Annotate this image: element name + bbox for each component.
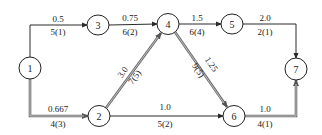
edge-5-7-top-label: 2.0	[259, 13, 271, 23]
node-1-label: 1	[28, 63, 33, 74]
node-6: 6	[223, 106, 245, 127]
edge-3-4: 0.75 6(2)	[109, 13, 157, 37]
node-2-label: 2	[97, 111, 102, 122]
activity-network-diagram: 0.5 5(1) 0.667 4(3) 0.75 6(2) 3.0 7(5) 1…	[0, 0, 322, 135]
node-2: 2	[88, 106, 110, 127]
edge-1-2-bottom-label: 4(3)	[51, 119, 66, 129]
node-5-label: 5	[230, 19, 235, 30]
edge-2-6: 1.0 5(2)	[110, 102, 223, 129]
edge-1-2: 0.667 4(3)	[30, 79, 88, 129]
edge-1-2-top-label: 0.667	[48, 104, 69, 114]
edge-2-6-bottom-label: 5(2)	[158, 119, 173, 129]
edge-3-4-top-label: 0.75	[122, 13, 138, 23]
edge-1-3-top-label: 0.5	[52, 14, 64, 24]
node-7-label: 7	[294, 64, 299, 75]
node-5: 5	[221, 14, 243, 34]
node-7: 7	[285, 58, 307, 80]
edge-2-6-top-label: 1.0	[159, 102, 171, 112]
node-1: 1	[19, 57, 41, 79]
node-4: 4	[157, 14, 179, 35]
node-4-label: 4	[166, 19, 171, 30]
edge-4-5-bottom-label: 6(4)	[190, 27, 205, 37]
edge-1-3-bottom-label: 5(1)	[51, 27, 66, 37]
edge-5-7-bottom-label: 2(1)	[258, 27, 273, 37]
edge-6-7-bottom-label: 4(1)	[258, 119, 273, 129]
edge-6-7: 1.0 4(1)	[245, 80, 296, 129]
edge-3-4-bottom-label: 6(2)	[123, 27, 138, 37]
edge-4-6: 1.25 9(5)	[175, 32, 227, 107]
node-6-label: 6	[232, 111, 237, 122]
edge-4-5-top-label: 1.5	[191, 13, 203, 23]
edge-4-5: 1.5 6(4)	[179, 13, 221, 37]
edge-2-4: 3.0 7(5)	[106, 33, 161, 108]
node-3: 3	[87, 15, 109, 35]
edge-6-7-top-label: 1.0	[259, 104, 271, 114]
edge-5-7: 2.0 2(1)	[243, 13, 296, 58]
edge-1-3: 0.5 5(1)	[30, 14, 87, 57]
node-3-label: 3	[96, 20, 101, 31]
